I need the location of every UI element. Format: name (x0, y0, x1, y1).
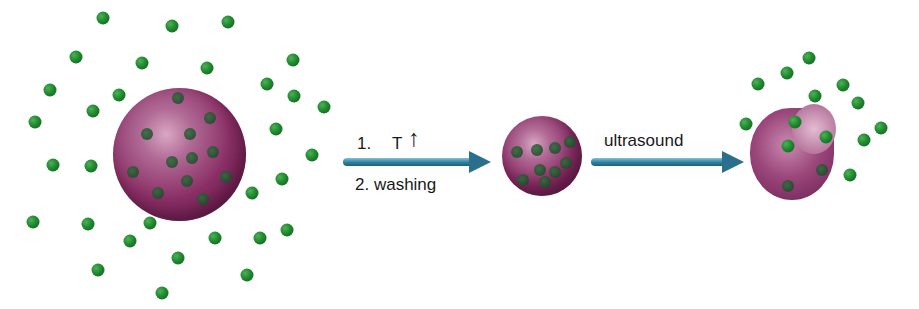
released-molecule (809, 90, 822, 103)
molecule (97, 12, 110, 25)
molecule (29, 116, 42, 129)
molecule (113, 89, 126, 102)
released-molecule (752, 78, 765, 91)
molecule (276, 173, 289, 186)
embedded-molecule (152, 187, 164, 199)
step1-temperature-symbol: T (392, 134, 402, 154)
large-particle (113, 88, 246, 221)
molecule (246, 187, 259, 200)
embedded-molecule (549, 166, 561, 178)
ruptured-opening (792, 104, 836, 154)
embedded-molecule (197, 193, 209, 205)
molecule (27, 216, 40, 229)
process-arrow-2 (591, 158, 726, 166)
molecule (201, 62, 214, 75)
embedded-molecule (511, 146, 523, 158)
released-molecule (858, 134, 871, 147)
step2-washing: 2. washing (355, 175, 436, 195)
embedded-molecule (207, 146, 219, 158)
molecule (87, 105, 100, 118)
embedded-molecule (782, 180, 794, 192)
molecule (287, 54, 300, 67)
released-molecule (837, 79, 850, 92)
embedded-molecule (184, 128, 196, 140)
molecule (241, 269, 254, 282)
released-molecule (782, 140, 795, 153)
molecule (124, 235, 137, 248)
embedded-molecule (534, 164, 546, 176)
molecule (318, 101, 331, 114)
molecule (306, 149, 319, 162)
embedded-molecule (517, 174, 529, 186)
embedded-molecule (560, 157, 572, 169)
released-molecule (852, 97, 865, 110)
molecule (254, 232, 267, 245)
molecule (261, 78, 274, 91)
molecule (47, 159, 60, 172)
molecule (136, 57, 149, 70)
released-molecule (844, 169, 857, 182)
embedded-molecule (549, 142, 561, 154)
molecule (270, 123, 283, 136)
molecule (44, 84, 57, 97)
molecule (288, 90, 301, 103)
molecule (222, 16, 235, 29)
embedded-molecule (220, 171, 232, 183)
embedded-molecule (141, 128, 153, 140)
embedded-molecule (172, 92, 184, 104)
released-molecule (820, 131, 833, 144)
released-molecule (789, 116, 802, 129)
process-arrow-1 (343, 158, 473, 166)
released-molecule (803, 52, 816, 65)
molecule (144, 217, 157, 230)
embedded-molecule (816, 164, 828, 176)
molecule (82, 218, 95, 231)
embedded-molecule (166, 156, 178, 168)
released-molecule (781, 67, 794, 80)
molecule (166, 20, 179, 33)
embedded-molecule (181, 175, 193, 187)
embedded-molecule (186, 152, 198, 164)
released-molecule (875, 122, 888, 135)
embedded-molecule (531, 144, 543, 156)
molecule (85, 160, 98, 173)
ultrasound-label: ultrasound (604, 131, 683, 151)
embedded-molecule (204, 112, 216, 124)
released-molecule (740, 118, 753, 131)
embedded-molecule (564, 136, 576, 148)
embedded-molecule (539, 176, 551, 188)
molecule (172, 252, 185, 265)
molecule (70, 51, 83, 64)
step1-number: 1. (357, 134, 371, 154)
embedded-molecule (127, 166, 139, 178)
molecule (156, 287, 169, 300)
molecule (209, 232, 222, 245)
molecule (281, 224, 294, 237)
temperature-increase-arrow-icon: ↑ (408, 124, 420, 152)
molecule (92, 264, 105, 277)
